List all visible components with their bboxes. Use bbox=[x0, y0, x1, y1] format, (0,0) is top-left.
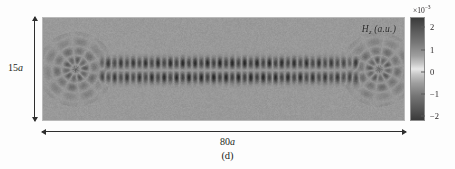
field-map-panel: Hz (a.u.) bbox=[42, 17, 405, 121]
colorbar-tick-label-4: −2 bbox=[430, 111, 439, 121]
arrow-head-down-icon bbox=[32, 117, 38, 122]
field-units: (a.u.) bbox=[374, 24, 396, 34]
colorbar-tick-mark-1 bbox=[421, 50, 425, 51]
horizontal-dimension-value: 80 bbox=[220, 136, 230, 147]
field-symbol: H bbox=[362, 24, 369, 34]
colorbar-tick-label-1: 1 bbox=[430, 45, 434, 55]
horizontal-dimension-arrow bbox=[42, 131, 406, 132]
colorbar-gradient bbox=[410, 17, 425, 121]
colorbar: ×10−3 2 1 0 −1 −2 bbox=[410, 17, 428, 121]
vertical-dimension-label: 15a bbox=[8, 62, 23, 73]
arrow-head-right-icon bbox=[402, 129, 407, 135]
colorbar-exponent-label: ×10−3 bbox=[413, 4, 431, 15]
field-map-canvas bbox=[43, 18, 404, 120]
field-symbol-subscript: z bbox=[369, 28, 372, 35]
colorbar-exponent-power: −3 bbox=[425, 4, 431, 10]
horizontal-dimension-label: 80a bbox=[0, 136, 455, 147]
colorbar-tick-label-0: 2 bbox=[430, 22, 434, 32]
colorbar-tick-label-2: 0 bbox=[430, 67, 434, 77]
colorbar-tick-label-3: −1 bbox=[430, 89, 439, 99]
vertical-dimension-unit: a bbox=[18, 62, 23, 73]
colorbar-tick-mark-4 bbox=[421, 116, 425, 117]
panel-caption: (d) bbox=[0, 150, 455, 161]
vertical-dimension-value: 15 bbox=[8, 62, 18, 73]
vertical-dimension-arrow bbox=[34, 17, 35, 121]
colorbar-tick-mark-3 bbox=[421, 94, 425, 95]
arrow-head-up-icon bbox=[32, 16, 38, 21]
colorbar-exponent-prefix: ×10 bbox=[413, 6, 425, 15]
field-quantity-label: Hz (a.u.) bbox=[362, 24, 396, 35]
colorbar-tick-mark-2 bbox=[421, 72, 425, 73]
horizontal-dimension-unit: a bbox=[230, 136, 235, 147]
arrow-head-left-icon bbox=[41, 129, 46, 135]
figure-root: Hz (a.u.) ×10−3 2 1 0 −1 −2 15a 80a (d) bbox=[0, 0, 455, 169]
colorbar-tick-mark-0 bbox=[421, 27, 425, 28]
